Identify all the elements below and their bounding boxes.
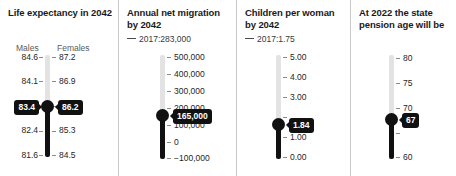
badge-pointer-icon (399, 117, 402, 123)
panel-subtitle-text: 2017:1.75 (257, 34, 295, 44)
badge-pointer-icon (55, 104, 58, 110)
tick-label: 1.00 (290, 133, 307, 142)
tick-mark (52, 57, 56, 58)
tick-label-female: 85.3 (59, 126, 76, 135)
tick-label: 60 (403, 153, 412, 162)
tick-label: 300,000 (174, 87, 205, 96)
tick-label: −100,000 (174, 154, 210, 163)
value-badge-male-text: 83.4 (18, 102, 35, 112)
tick-mark (396, 157, 400, 158)
tick-mark (39, 57, 43, 58)
panel-title: Life expectancy in 2042 (8, 7, 114, 19)
assumptions-slider-board: Life expectancy in 2042 Males Females (0, 0, 456, 176)
panel-net-migration: Annual net migration by 2042 2017:283,00… (118, 0, 236, 176)
value-badge-male: 83.4 (14, 100, 39, 115)
tick-mark (39, 155, 43, 156)
tick-label-male: 84.6 (21, 53, 38, 62)
tick-label-male: 84.1 (21, 77, 38, 86)
tick-mark (167, 74, 171, 75)
tick-mark (283, 157, 287, 158)
tick-mark (167, 142, 171, 143)
tick-label-female: 86.9 (59, 77, 76, 86)
panel-life-expectancy: Life expectancy in 2042 Males Females (0, 0, 118, 176)
slider-track-fill (45, 106, 50, 157)
reference-line-icon (127, 38, 136, 39)
tick-label: 400,000 (174, 70, 205, 79)
net-migration-slider[interactable]: 500,000 400,000 300,000 200,000 100,000 … (160, 55, 165, 159)
tick-mark (167, 158, 171, 159)
value-badge-female: 86.2 (58, 100, 83, 115)
tick-mark (167, 91, 171, 92)
tick-mark (39, 81, 43, 82)
tick-label: 0.00 (290, 153, 307, 162)
tick-mark (167, 125, 171, 126)
tick-label: 80 (403, 54, 412, 63)
life-expectancy-slider[interactable]: 84.6 84.1 82.4 81.6 87.2 86.9 85.3 84.5 … (45, 55, 50, 157)
life-expectancy-slider-group: Males Females 84.6 84.1 8 (0, 0, 118, 176)
tick-mark (52, 155, 56, 156)
tick-mark (52, 131, 56, 132)
slider-thumb[interactable] (385, 113, 398, 126)
reference-line-icon (245, 38, 254, 39)
slider-thumb[interactable] (41, 100, 54, 113)
panel-children-per-woman: Children per woman by 2042 2017:1.75 5.0… (236, 0, 350, 176)
panel-subtitle: 2017:283,000 (127, 33, 232, 45)
slider-thumb[interactable] (272, 118, 285, 131)
value-badge-text: 165,000 (177, 111, 208, 121)
tick-label: 75 (403, 79, 412, 88)
panel-title: At 2022 the state pension age will be (359, 7, 452, 31)
tick-label: 3.00 (290, 93, 307, 102)
tick-label: 70 (403, 104, 412, 113)
value-badge-text: 67 (406, 115, 415, 125)
tick-mark (283, 77, 287, 78)
value-badge-text: 1.84 (293, 120, 310, 130)
slider-thumb[interactable] (156, 109, 169, 122)
badge-pointer-icon (170, 113, 173, 119)
tick-mark (52, 81, 56, 82)
tick-mark (396, 83, 400, 84)
tick-mark (396, 133, 400, 134)
value-badge: 67 (402, 113, 419, 128)
tick-label: 500,000 (174, 53, 205, 62)
panel-title: Annual net migration by 2042 (127, 7, 232, 31)
tick-mark (396, 58, 400, 59)
tick-mark (396, 108, 400, 109)
tick-label-female: 84.5 (59, 151, 76, 160)
value-badge: 1.84 (289, 118, 314, 133)
tick-label: 0 (174, 138, 179, 147)
tick-mark (167, 57, 171, 58)
children-per-woman-slider[interactable]: 5.00 4.00 3.00 1.00 0.00 1.84 (276, 55, 281, 159)
panel-subtitle-text: 2017:283,000 (139, 34, 191, 44)
panel-subtitle: 2017:1.75 (245, 33, 346, 45)
tick-label: 4.00 (290, 73, 307, 82)
tick-label-male: 82.4 (21, 126, 38, 135)
panel-pension-age: At 2022 the state pension age will be 80… (350, 0, 456, 176)
tick-mark (283, 117, 287, 118)
tick-mark (39, 131, 43, 132)
value-badge-female-text: 86.2 (62, 102, 79, 112)
tick-mark (283, 137, 287, 138)
tick-label-female: 87.2 (59, 53, 76, 62)
tick-label-male: 81.6 (21, 151, 38, 160)
pension-age-slider[interactable]: 80 75 70 60 67 (389, 55, 394, 159)
tick-mark (283, 57, 287, 58)
badge-pointer-icon (286, 122, 289, 128)
value-badge: 165,000 (173, 109, 212, 124)
tick-mark (283, 97, 287, 98)
tick-label: 5.00 (290, 53, 307, 62)
tick-mark (167, 108, 171, 109)
panel-title: Children per woman by 2042 (245, 7, 346, 31)
